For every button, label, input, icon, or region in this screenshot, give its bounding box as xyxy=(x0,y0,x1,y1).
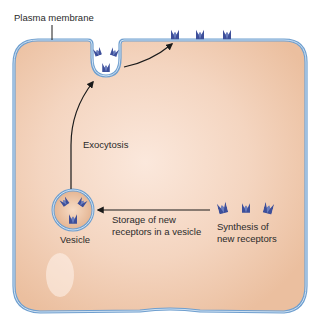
label-synthesis-line2: new receptors xyxy=(217,233,277,244)
label-synthesis-line1: Synthesis of xyxy=(217,221,269,232)
label-storage-line1: Storage of new xyxy=(112,214,176,225)
label-storage-line2: receptors in a vesicle xyxy=(112,226,201,237)
label-plasma-membrane: Plasma membrane xyxy=(14,12,94,23)
label-exocytosis: Exocytosis xyxy=(83,139,129,150)
fusing-receptors xyxy=(93,47,119,72)
label-vesicle: Vesicle xyxy=(60,234,90,245)
surface-receptors xyxy=(171,30,231,40)
cell xyxy=(14,40,306,312)
cytoplasm-highlight xyxy=(46,253,74,297)
vesicle xyxy=(53,190,93,230)
diagram-canvas: Plasma membrane Exocytosis Vesicle Stora… xyxy=(0,0,319,328)
